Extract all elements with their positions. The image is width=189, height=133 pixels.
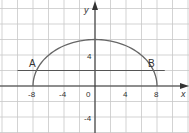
- y-axis-arrow-icon: [92, 1, 98, 10]
- point-b-label: B: [148, 58, 155, 69]
- point-a-label: A: [29, 58, 36, 69]
- tick-x-4: 4: [123, 90, 128, 99]
- coordinate-plane-chart: x y A B -8 -4 0 4 8 4 -4: [0, 0, 189, 133]
- tick-x-0: 0: [86, 90, 91, 99]
- y-axis-label: y: [83, 5, 89, 15]
- tick-x-minus-8: -8: [28, 90, 36, 99]
- tick-y-4: 4: [87, 52, 92, 61]
- x-axis-label: x: [180, 89, 186, 99]
- tick-y-minus-4: -4: [84, 114, 92, 123]
- tick-x-minus-4: -4: [59, 90, 67, 99]
- tick-x-8: 8: [154, 90, 159, 99]
